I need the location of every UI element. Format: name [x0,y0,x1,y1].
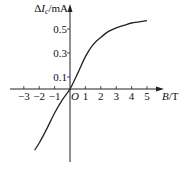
y-axis-arrow-icon [68,4,73,12]
y-tick-label: 0.1 [53,71,67,83]
x-tick-label: 1 [83,90,89,102]
y-tick-label: 0.3 [53,47,67,59]
x-tick-label: 4 [129,90,135,102]
chart: −3−2−1123450.10.30.5OB/TΔIc/mA [0,0,184,171]
y-axis-label: ΔIc/mA [34,2,68,16]
x-tick-label: 2 [98,90,104,102]
data-curve [35,21,147,151]
x-tick-label: −1 [49,90,61,102]
x-axis-label: B/T [162,90,179,102]
x-tick-label: 5 [144,90,150,102]
y-tick-label: 0.5 [53,23,67,35]
origin-label: O [71,90,79,102]
x-tick-label: −2 [33,90,45,102]
x-tick-label: −3 [18,90,30,102]
x-tick-label: 3 [113,90,119,102]
